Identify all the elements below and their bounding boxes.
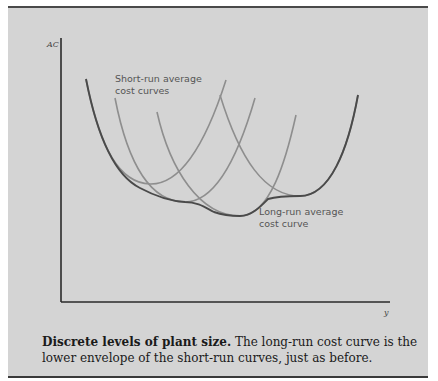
x-axis-label: y bbox=[383, 308, 389, 317]
long-run-label-line2: cost curve bbox=[259, 218, 309, 229]
short-run-curves bbox=[86, 79, 358, 216]
long-run-label-line1: Long-run average bbox=[259, 206, 343, 217]
figure-caption: Discrete levels of plant size. The long-… bbox=[42, 334, 422, 366]
cost-curve-chart: AC y Short-run average cost curves Long-… bbox=[0, 0, 438, 381]
caption-title: Discrete levels of plant size. bbox=[42, 335, 231, 349]
short-run-label-line1: Short-run average bbox=[115, 73, 202, 84]
y-axis-label: AC bbox=[46, 40, 59, 49]
short-run-label-line2: cost curves bbox=[115, 85, 169, 96]
